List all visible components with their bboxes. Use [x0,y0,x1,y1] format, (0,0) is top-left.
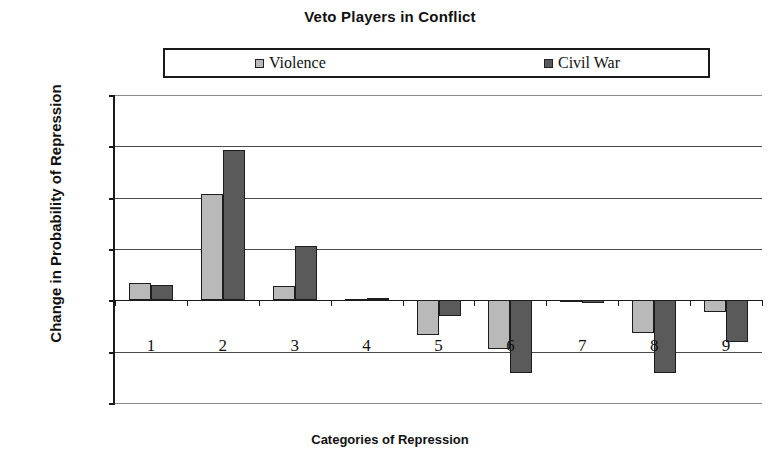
x-axis-tick-mark [762,300,763,306]
bar-violence-8 [632,300,654,333]
gridline [115,403,762,404]
bar-civil-war-5 [439,300,461,315]
x-axis-tick-mark [474,300,475,306]
y-axis-tick-mark [109,146,115,148]
gridline [115,95,762,96]
civil-war-swatch-icon [544,59,553,68]
bar-violence-2 [201,194,223,301]
x-axis-tick-mark [259,300,260,306]
x-axis-category-label: 9 [706,336,746,356]
chart-title: Veto Players in Conflict [0,8,780,25]
y-axis-tick-mark [109,95,115,97]
violence-swatch-icon [255,59,264,68]
y-axis-tick-mark [109,403,115,405]
y-axis-tick-mark [109,198,115,200]
x-axis-category-label: 6 [490,336,530,356]
x-axis-tick-mark [546,300,547,306]
bar-civil-war-7 [582,300,604,303]
plot-area: 0.20.150.10.050-0.05-0.1123456789 [113,95,760,403]
x-axis-tick-mark [115,300,116,306]
gridline [115,146,762,147]
legend-label: Violence [269,54,326,72]
chart-legend: ViolenceCivil War [163,48,710,78]
x-axis-title: Categories of Repression [0,432,780,447]
x-axis-tick-mark [331,300,332,306]
bar-civil-war-1 [151,285,173,300]
legend-entry-violence[interactable]: Violence [255,54,326,72]
x-axis-tick-mark [690,300,691,306]
bar-violence-3 [273,286,295,300]
bar-violence-5 [417,300,439,335]
legend-label: Civil War [558,54,620,72]
x-axis-tick-mark [187,300,188,306]
legend-entry-civil-war[interactable]: Civil War [544,54,620,72]
x-axis-category-label: 3 [275,336,315,356]
x-axis-category-label: 1 [131,336,171,356]
x-axis-tick-mark [618,300,619,306]
y-axis-title: Change in Probability of Repression [47,64,64,364]
y-axis-tick-mark [109,352,115,354]
bar-violence-9 [704,300,726,311]
bar-violence-1 [129,283,151,300]
y-axis-tick-mark [109,249,115,251]
bar-violence-4 [345,299,367,301]
x-axis-category-label: 4 [347,336,387,356]
bar-violence-7 [560,300,582,302]
chart-container: Veto Players in Conflict ViolenceCivil W… [0,0,780,470]
x-axis-category-label: 7 [562,336,602,356]
x-axis-category-label: 8 [634,336,674,356]
bar-civil-war-3 [295,246,317,300]
x-axis-category-label: 5 [419,336,459,356]
bar-civil-war-4 [367,298,389,300]
x-axis-category-label: 2 [203,336,243,356]
x-axis-tick-mark [403,300,404,306]
bar-civil-war-2 [223,150,245,300]
